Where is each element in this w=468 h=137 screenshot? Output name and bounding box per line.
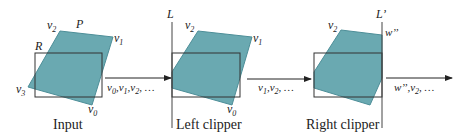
arrow-label-3: w’’,v2, … bbox=[394, 81, 435, 96]
caption-input: Input bbox=[53, 117, 83, 132]
arrow-label-1: v0,v1,v2, … bbox=[107, 81, 155, 96]
polygon-clipping-diagram: v2 P v1 R v3 v0 Input v0,v1,v2, … L v2 v… bbox=[0, 0, 468, 137]
caption-left-clipper: Left clipper bbox=[176, 117, 242, 132]
clip-line-label-l-prime: L’ bbox=[375, 7, 386, 21]
right-clipper-panel: L’ v2 w’’ Right clipper bbox=[306, 7, 399, 132]
clip-line-label-l: L bbox=[166, 7, 174, 21]
vertex-label-v1: v1 bbox=[253, 31, 262, 47]
vertex-label-v2: v2 bbox=[47, 18, 56, 34]
left-clipper-panel: L v2 v1 v0 Left clipper bbox=[166, 7, 262, 132]
polygon-right-clipped bbox=[314, 30, 382, 105]
arrow-right-output: w’’,v2, … bbox=[386, 78, 452, 96]
vertex-label-w: w’’ bbox=[385, 26, 399, 38]
rect-label-r: R bbox=[34, 39, 43, 53]
caption-right-clipper: Right clipper bbox=[306, 117, 380, 132]
arrow-left-to-right: v1,v2, … bbox=[247, 79, 311, 96]
vertex-label-v2: v2 bbox=[328, 18, 337, 34]
arrow-input-to-left: v0,v1,v2, … bbox=[105, 78, 171, 96]
vertex-label-v3: v3 bbox=[16, 82, 25, 98]
vertex-label-v0: v0 bbox=[227, 102, 236, 118]
polygon-label-p: P bbox=[75, 17, 84, 31]
vertex-label-v1: v1 bbox=[114, 31, 123, 47]
input-panel: v2 P v1 R v3 v0 Input bbox=[16, 17, 123, 132]
vertex-label-v2: v2 bbox=[185, 18, 194, 34]
vertex-label-v0: v0 bbox=[88, 102, 97, 118]
arrow-label-2: v1,v2, … bbox=[258, 81, 294, 96]
